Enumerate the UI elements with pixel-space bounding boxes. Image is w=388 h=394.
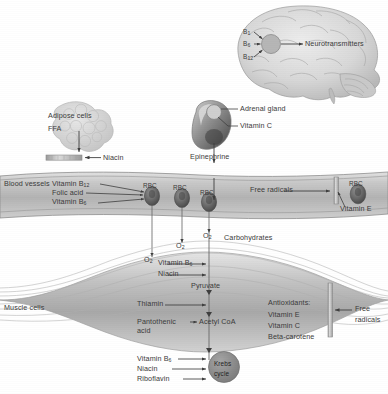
blood-vessels-label: Blood vessels (4, 180, 50, 188)
neurotransmitter-node (262, 35, 281, 54)
muscle-cells-label: Muscle cells (4, 304, 44, 312)
antioxidant-beta-carotene: Beta-carotene (268, 333, 314, 341)
pantothenic-acid-label-2: acid (137, 327, 151, 335)
niacin-krebs-label: Niacin (137, 365, 158, 373)
antioxidant-vitamin-e: Vitamin E (268, 311, 300, 319)
neurotransmitters-label: Neurotransmitters (305, 40, 364, 48)
krebs-cycle-label-1: Krebs (214, 360, 231, 367)
rbc-label-3: RBC (200, 189, 214, 196)
riboflavin-krebs-label: Riboflavin (137, 375, 170, 383)
rbc-label-1: RBC (143, 182, 157, 189)
muscle-illustration (0, 233, 388, 383)
diagram-canvas: B1 B6 B12 Neurotransmitters Adipose cell… (0, 0, 388, 394)
adrenal-gland-node (207, 105, 222, 120)
free-radicals-muscle-label-1: Free (355, 305, 370, 313)
thiamin-label: Thiamin (137, 300, 163, 308)
rbc-membrane-bar (334, 177, 339, 204)
ffa-label: FFA (48, 125, 61, 133)
krebs-cycle-label-2: cycle (214, 370, 229, 377)
pyruvate-label: Pyruvate (191, 282, 220, 290)
oxygen-label-3: O2 (203, 232, 212, 241)
adrenal-gland-label: Adrenal gland (240, 105, 286, 113)
niacin-adipose-label: Niacin (103, 154, 124, 162)
rbc-label-4: RBC (349, 180, 363, 187)
brain-input-b12: B12 (243, 53, 253, 62)
vitamin-e-vessel-label: Vitamin E (340, 205, 372, 213)
muscle-membrane-bar (328, 283, 333, 337)
acetyl-coa-label: Acetyl CoA (199, 318, 236, 326)
oxygen-label-1: O2 (144, 256, 153, 265)
brain-input-b6: B6 (243, 40, 250, 49)
free-radicals-muscle-label-2: radicals (355, 316, 381, 324)
vitamin-b6-krebs-label: Vitamin B6 (137, 355, 172, 364)
niacin-glycolysis-label: Niacin (158, 270, 179, 278)
brain-illustration (238, 6, 380, 104)
carbohydrates-label: Carbohydrates (224, 234, 272, 242)
adipose-cells-label: Adipose cells (48, 112, 92, 120)
vitamin-b6-glycolysis-label: Vitamin B6 (158, 259, 193, 268)
epinephrine-label: Epinephrine (190, 153, 229, 161)
rbc-label-2: RBC (173, 184, 187, 191)
vitamin-b6-vessel-label: Vitamin B6 (52, 198, 87, 207)
free-radicals-vessel-label: Free radicals (250, 186, 293, 194)
brain-input-b1: B1 (243, 28, 250, 37)
antioxidant-vitamin-c: Vitamin C (268, 322, 300, 330)
oxygen-label-2: O2 (176, 242, 185, 251)
antioxidants-heading: Antioxidants: (268, 299, 310, 307)
vitamin-c-adrenal-label: Vitamin C (240, 122, 272, 130)
